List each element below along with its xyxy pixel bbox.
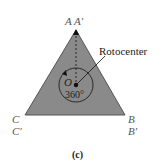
vertex-b-label: B (128, 114, 135, 125)
rotocenter-label: Rotocenter (99, 46, 147, 57)
figure-caption: (c) (72, 150, 83, 160)
center-o-label: O (64, 77, 72, 88)
angle-label: 360° (65, 90, 84, 100)
vertex-c-prime-label: C′ (12, 126, 22, 137)
vertex-a-label: A A′ (65, 16, 83, 27)
vertex-c-label: C (12, 114, 19, 125)
vertex-b-prime-label: B′ (128, 126, 137, 137)
arrowhead-top (73, 29, 79, 35)
